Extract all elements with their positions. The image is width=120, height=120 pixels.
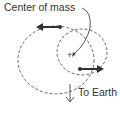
binary-orbit-diagram <box>0 0 120 120</box>
body-left <box>58 25 62 29</box>
to-earth-label: To Earth <box>78 86 117 98</box>
center-of-mass-marker: + <box>67 50 72 60</box>
body-right <box>78 67 82 71</box>
large-orbit <box>18 26 94 94</box>
velocity-arrowhead-right <box>97 65 104 73</box>
